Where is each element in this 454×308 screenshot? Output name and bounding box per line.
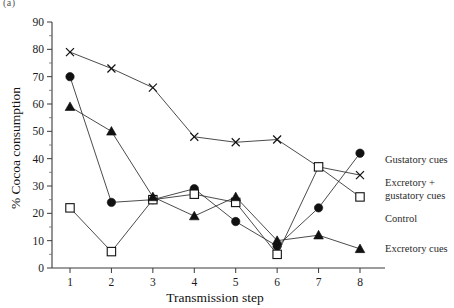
x-axis: 12345678 xyxy=(52,268,385,288)
x-tick-label: 4 xyxy=(191,276,197,288)
legend-label: gustatory cues xyxy=(385,190,445,201)
x-axis-title: Transmission step xyxy=(166,290,264,305)
x-tick-label: 2 xyxy=(109,276,115,288)
data-point-filled-triangle xyxy=(231,192,241,201)
y-tick-label: 30 xyxy=(33,180,45,192)
data-point-filled-circle xyxy=(232,217,240,225)
cocoa-consumption-line-chart: % Cocoa consumption Transmission step 01… xyxy=(0,0,454,308)
series-0 xyxy=(66,48,364,179)
data-point-filled-triangle xyxy=(355,244,365,253)
legend-entry-2[interactable]: Control xyxy=(385,213,417,224)
chart-legend: Gustatory cuesExcretory +gustatory cuesC… xyxy=(385,154,448,254)
x-tick-label: 5 xyxy=(233,276,239,288)
data-point-filled-triangle xyxy=(65,102,75,111)
y-tick-label: 60 xyxy=(33,98,45,110)
series-3 xyxy=(65,102,365,253)
y-axis: 0102030405060708090 xyxy=(33,16,53,274)
x-tick-label: 8 xyxy=(357,276,363,288)
y-tick-label: 0 xyxy=(38,262,44,274)
data-point-filled-circle xyxy=(356,149,364,157)
data-point-open-square xyxy=(66,204,74,212)
series-plot-area xyxy=(65,48,365,258)
data-point-x-cross xyxy=(149,84,157,92)
y-axis-title: % Cocoa consumption xyxy=(8,87,23,209)
series-line xyxy=(70,107,360,249)
data-point-open-square xyxy=(107,247,115,255)
y-tick-label: 90 xyxy=(33,16,45,28)
legend-label: Excretory cues xyxy=(385,243,448,254)
data-point-x-cross xyxy=(107,64,115,72)
x-tick-label: 3 xyxy=(150,276,156,288)
legend-entry-1[interactable]: Excretory +gustatory cues xyxy=(385,177,445,201)
data-point-open-square xyxy=(273,250,281,258)
legend-label: Excretory + xyxy=(385,177,435,188)
legend-label: Gustatory cues xyxy=(385,154,448,165)
data-point-filled-circle xyxy=(107,198,115,206)
legend-label: Control xyxy=(385,213,417,224)
data-point-filled-circle xyxy=(314,204,322,212)
data-point-open-square xyxy=(190,190,198,198)
data-point-filled-triangle xyxy=(107,127,117,136)
panel-tag: (a) xyxy=(3,0,16,8)
x-tick-label: 1 xyxy=(67,276,73,288)
x-tick-label: 7 xyxy=(316,276,322,288)
y-tick-label: 10 xyxy=(33,235,45,247)
data-point-x-cross xyxy=(356,171,364,179)
y-tick-label: 80 xyxy=(33,43,45,55)
y-tick-label: 70 xyxy=(33,71,45,83)
data-point-x-cross xyxy=(66,48,74,56)
series-line xyxy=(70,77,360,246)
data-point-open-square xyxy=(356,193,364,201)
x-tick-label: 6 xyxy=(274,276,280,288)
legend-entry-3[interactable]: Excretory cues xyxy=(385,243,448,254)
data-point-filled-circle xyxy=(66,72,74,80)
y-tick-label: 50 xyxy=(33,125,45,137)
series-1 xyxy=(66,72,364,250)
data-point-filled-triangle xyxy=(189,211,199,220)
data-point-filled-triangle xyxy=(314,230,324,239)
y-tick-label: 20 xyxy=(33,207,45,219)
y-tick-label: 40 xyxy=(33,153,45,165)
data-point-open-square xyxy=(314,163,322,171)
legend-entry-0[interactable]: Gustatory cues xyxy=(385,154,448,165)
figure-panel: (a) % Cocoa consumption Transmission ste… xyxy=(0,0,454,308)
